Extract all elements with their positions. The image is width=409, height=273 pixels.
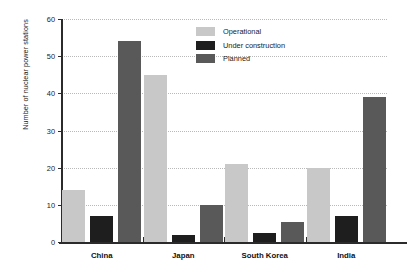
x-tick-label: South Korea <box>224 251 306 260</box>
bar-under-construction <box>90 216 113 242</box>
bar-planned <box>281 222 304 242</box>
legend-label: Planned <box>223 54 250 63</box>
bar-planned <box>118 41 141 242</box>
chart-legend: OperationalUnder constructionPlanned <box>196 25 346 66</box>
bar-operational <box>144 75 167 242</box>
x-tick-label: India <box>306 251 388 260</box>
legend-swatch <box>196 27 215 36</box>
y-tick-label: 0 <box>51 238 55 247</box>
y-tick-label: 20 <box>47 163 55 172</box>
y-tick-label: 10 <box>47 200 55 209</box>
x-group-separator <box>306 237 307 242</box>
legend-item-under-construction: Under construction <box>196 39 346 53</box>
x-group-separator <box>143 237 144 242</box>
legend-label: Operational <box>223 27 261 36</box>
y-axis-title: Number of nuclear power stations <box>21 0 30 160</box>
legend-item-operational: Operational <box>196 25 346 39</box>
legend-swatch <box>196 54 215 63</box>
bar-under-construction <box>253 233 276 242</box>
y-tick-label: 40 <box>47 89 55 98</box>
bar-planned <box>363 97 386 242</box>
bar-chart: Number of nuclear power stations 0102030… <box>0 0 409 273</box>
x-tick-label: China <box>61 251 143 260</box>
bar-under-construction <box>172 235 195 242</box>
y-tick-label: 60 <box>47 15 55 24</box>
bar-group-china: China <box>61 19 143 242</box>
bar-operational <box>225 164 248 242</box>
legend-item-planned: Planned <box>196 52 346 66</box>
legend-label: Under construction <box>223 41 285 50</box>
y-tick-label: 50 <box>47 52 55 61</box>
bar-under-construction <box>335 216 358 242</box>
bar-planned <box>200 205 223 242</box>
legend-swatch <box>196 41 215 50</box>
x-group-separator <box>224 237 225 242</box>
x-tick-label: Japan <box>143 251 225 260</box>
bar-operational <box>307 168 330 242</box>
y-tick-label: 30 <box>47 126 55 135</box>
bar-operational <box>62 190 85 242</box>
x-axis-line <box>59 242 407 244</box>
